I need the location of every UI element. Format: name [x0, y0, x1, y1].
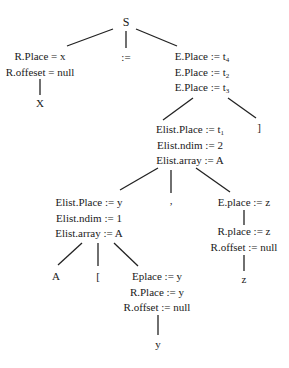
node-label: y [155, 338, 161, 350]
node-line: E.Place := t3 [175, 80, 230, 96]
node-line: Elist.array := A [156, 153, 224, 169]
edge-inner-a [58, 243, 82, 265]
edge-inner-ey [114, 243, 138, 266]
node-line: R.Place := y [124, 285, 191, 301]
node-line: Elist.ndim := 1 [55, 211, 123, 227]
node-line: Elist.array := A [55, 226, 123, 242]
node-assign: := [121, 50, 130, 66]
node-label: , [170, 194, 173, 206]
node-lbracket: [ [96, 269, 100, 285]
node-s: S [123, 15, 130, 31]
node-line: E.Place := t2 [175, 65, 230, 81]
node-line: Eplace := y [124, 269, 191, 285]
node-line: Elist.Place := y [55, 195, 123, 211]
node-comma: , [170, 193, 173, 209]
node-line: Elist.Place := t1 [156, 122, 224, 138]
edge-elist-ez [196, 168, 230, 192]
node-elist-outer: Elist.Place := t1 Elist.ndim := 2 Elist.… [156, 122, 224, 169]
node-label: E.place := z [218, 196, 270, 208]
node-line: R.Place = x [6, 49, 75, 65]
node-elist-inner: Elist.Place := y Elist.ndim := 1 Elist.a… [55, 195, 123, 242]
node-e-z: E.place := z [218, 195, 270, 211]
node-label: X [36, 97, 44, 109]
node-e-top: E.Place := t4 E.Place := t2 E.Place := t… [175, 49, 230, 96]
node-line: R.offset := null [124, 300, 191, 316]
node-x-leaf: X [36, 96, 44, 112]
node-label: ] [257, 121, 261, 133]
node-label: [ [96, 270, 100, 282]
node-line: R.place := z [211, 224, 278, 240]
node-r-z: R.place := z R.offset := null [211, 224, 278, 255]
node-line: R.offset := null [211, 240, 278, 256]
node-label: A [52, 270, 60, 282]
node-label: := [121, 51, 130, 63]
node-rbracket: ] [257, 120, 261, 136]
edge-e-rbracket [228, 98, 256, 118]
node-label: z [242, 273, 247, 285]
edge-e-elist [163, 98, 193, 120]
node-z-leaf: z [242, 272, 247, 288]
node-line: E.Place := t4 [175, 49, 230, 65]
edge-elist-inner [120, 168, 158, 190]
edge-s-r [67, 29, 113, 46]
node-y-leaf: y [155, 337, 161, 353]
node-label: S [123, 15, 130, 29]
node-a-leaf: A [52, 269, 60, 285]
node-r-left: R.Place = x R.offeset = null [6, 49, 75, 80]
node-line: Elist.ndim := 2 [156, 138, 224, 154]
node-e-y: Eplace := y R.Place := y R.offset := nul… [124, 269, 191, 316]
edge-s-e [136, 29, 177, 46]
node-line: R.offeset = null [6, 65, 75, 81]
